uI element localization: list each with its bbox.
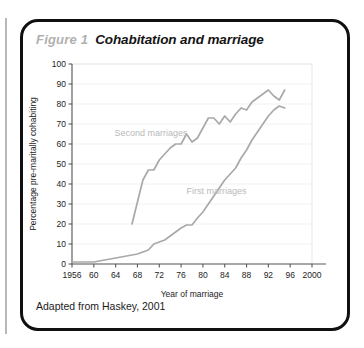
x-tick-label: 88 <box>242 270 252 280</box>
x-tick-label: 64 <box>111 270 121 280</box>
figure-caption: Adapted from Haskey, 2001 <box>36 300 165 312</box>
x-tick-label: 1956 <box>63 270 82 280</box>
x-tick-label: 92 <box>264 270 274 280</box>
series-label: Second marriages <box>115 128 189 138</box>
y-axis: 0102030405060708090100 <box>52 59 72 269</box>
y-tick-label: 60 <box>57 139 67 149</box>
y-tick-label: 90 <box>57 79 67 89</box>
y-tick-label: 100 <box>52 59 66 69</box>
x-tick-label: 80 <box>198 270 208 280</box>
y-tick-label: 50 <box>57 159 67 169</box>
x-tick-label: 72 <box>155 270 165 280</box>
chart-gridlines <box>72 64 312 244</box>
series-annotations: Second marriagesFirst marriages <box>115 128 247 196</box>
x-tick-label: 96 <box>285 270 295 280</box>
y-tick-label: 20 <box>57 219 67 229</box>
series-label: First marriages <box>187 186 248 196</box>
y-tick-label: 10 <box>57 239 67 249</box>
left-margin-rule <box>5 18 7 334</box>
figure-title-row: Figure 1Cohabitation and marriage <box>36 30 264 48</box>
y-tick-label: 30 <box>57 199 67 209</box>
figure-container: Figure 1Cohabitation and marriage 010203… <box>0 0 364 348</box>
x-tick-label: 2000 <box>303 270 322 280</box>
figure-number: Figure 1 <box>36 32 88 47</box>
page-title: Cohabitation and marriage <box>95 32 264 47</box>
y-tick-label: 70 <box>57 119 67 129</box>
y-tick-label: 80 <box>57 99 67 109</box>
y-tick-label: 0 <box>61 259 66 269</box>
x-tick-label: 76 <box>176 270 186 280</box>
x-tick-label: 84 <box>220 270 230 280</box>
x-tick-label: 68 <box>133 270 143 280</box>
line-chart: 0102030405060708090100 19566064687276808… <box>20 48 350 298</box>
x-axis-title: Year of marriage <box>161 289 224 299</box>
x-axis: 1956606468727680848892962000 <box>63 264 326 280</box>
y-tick-label: 40 <box>57 179 67 189</box>
chart-series-group <box>72 90 285 262</box>
x-tick-label: 60 <box>89 270 99 280</box>
y-axis-title: Percentage pre-maritally cohabiting <box>28 97 38 231</box>
